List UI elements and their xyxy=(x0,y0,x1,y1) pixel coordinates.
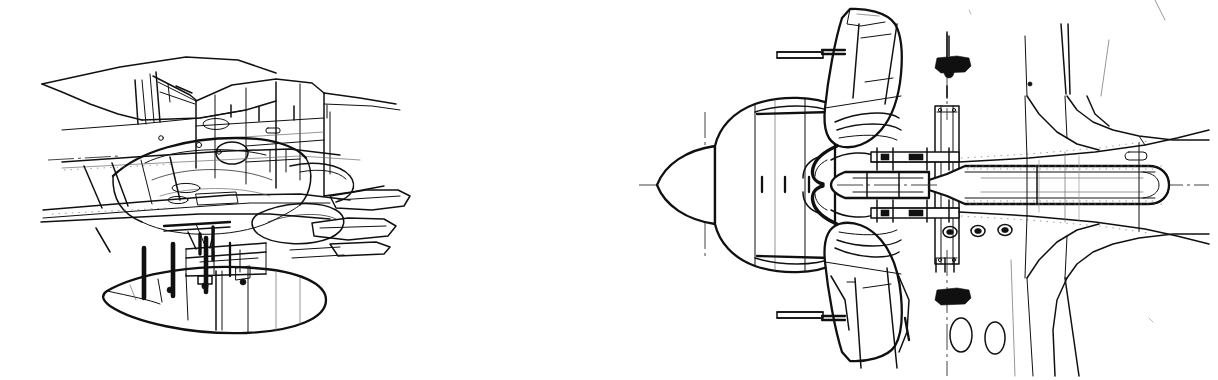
plan-view-svg xyxy=(609,0,1218,380)
aerial-mast-pair xyxy=(1025,24,1070,96)
torpedo-forward-body-extension xyxy=(831,172,939,198)
wing-leading-edge xyxy=(135,72,160,124)
figure-sheet xyxy=(0,0,1218,380)
wing-lower-surface xyxy=(41,149,360,222)
wing-strut-bracing xyxy=(153,76,196,104)
drawing-panel-oblique xyxy=(0,0,609,380)
wing-access-oval xyxy=(950,318,1005,354)
lower-wing-panel-line xyxy=(1011,260,1079,376)
wing-root-trailing-edge xyxy=(959,212,1209,278)
torpedo-body xyxy=(929,166,1169,204)
propeller-spinner xyxy=(657,146,715,224)
fuselage-access-hatch xyxy=(159,119,280,165)
fuselage-side-panel xyxy=(196,79,324,196)
bracket-fitting-upper xyxy=(935,36,971,73)
rear-fuselage-extension xyxy=(324,93,400,196)
wing-upper-access-slot xyxy=(1125,152,1147,160)
wing-root-leading-edge xyxy=(959,96,1209,162)
upper-wing-panel-line xyxy=(1101,0,1165,96)
torpedo-body xyxy=(103,267,326,333)
drawing-panel-plan xyxy=(609,0,1218,380)
bracket-fitting-lower xyxy=(935,288,971,305)
oblique-view-svg xyxy=(0,0,609,380)
engine-cowling xyxy=(715,98,835,272)
wing-upper-surface xyxy=(42,57,276,130)
